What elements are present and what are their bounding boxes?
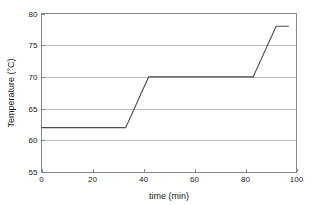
x-tick-label-20: 20 xyxy=(88,175,97,184)
y-tick-label-75: 75 xyxy=(29,41,38,50)
x-tick-label-80: 80 xyxy=(241,175,250,184)
x-tick-label-100: 100 xyxy=(290,175,304,184)
chart-figure: 020406080100 556065707580 time (min) Tem… xyxy=(0,0,317,205)
y-tick-label-55: 55 xyxy=(29,168,38,177)
y-axis-title: Temperature (°C) xyxy=(6,58,16,127)
temperature-vs-time-line-chart: 020406080100 556065707580 time (min) Tem… xyxy=(0,0,317,205)
chart-background xyxy=(0,0,317,205)
y-tick-label-60: 60 xyxy=(29,136,38,145)
x-axis-title: time (min) xyxy=(149,191,189,201)
y-tick-label-80: 80 xyxy=(29,10,38,19)
x-tick-label-0: 0 xyxy=(39,175,44,184)
x-tick-label-40: 40 xyxy=(139,175,148,184)
y-tick-label-65: 65 xyxy=(29,105,38,114)
x-tick-label-60: 60 xyxy=(190,175,199,184)
y-tick-label-70: 70 xyxy=(29,73,38,82)
